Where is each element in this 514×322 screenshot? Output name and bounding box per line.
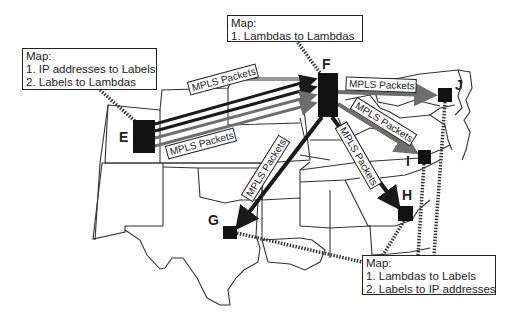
map-box-egress-line1: 1. Lambdas to Labels — [366, 270, 492, 283]
node-label-f: F — [322, 56, 331, 72]
node-h[interactable] — [398, 206, 413, 221]
packet-label-f-i: MPLS Packets — [353, 100, 414, 144]
map-box-core: Map: 1. Lambdas to Lambdas — [227, 15, 363, 42]
map-box-ingress-line1: 1. IP addresses to Labels — [26, 63, 153, 76]
node-i[interactable] — [418, 150, 431, 164]
map-box-ingress: Map: 1. IP addresses to Labels 2. Labels… — [22, 48, 157, 90]
map-box-ingress-title: Map: — [26, 50, 153, 63]
node-g[interactable] — [223, 226, 237, 239]
node-label-i: I — [406, 153, 410, 169]
node-f[interactable] — [318, 73, 338, 117]
node-e[interactable] — [133, 120, 155, 153]
node-label-h: H — [402, 187, 412, 203]
node-label-j: J — [455, 77, 463, 93]
map-box-egress-line2: 2. Labels to IP addresses — [366, 283, 492, 296]
map-box-ingress-line2: 2. Labels to Lambdas — [26, 76, 153, 89]
node-label-e: E — [119, 129, 128, 145]
map-box-egress: Map: 1. Lambdas to Labels 2. Labels to I… — [362, 255, 496, 295]
map-box-core-line1: 1. Lambdas to Lambdas — [231, 30, 359, 43]
map-box-egress-title: Map: — [366, 257, 492, 270]
node-j[interactable] — [438, 88, 452, 102]
packet-label-f-j: MPLS Packets — [349, 78, 415, 91]
node-label-g: G — [208, 212, 219, 228]
map-box-core-title: Map: — [231, 17, 359, 30]
